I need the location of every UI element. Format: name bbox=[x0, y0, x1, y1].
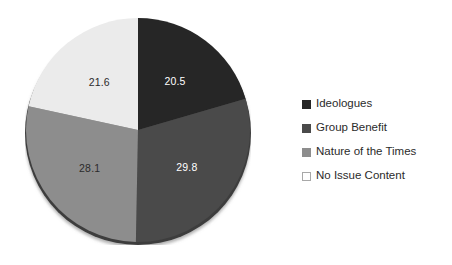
legend-item-no-issue-content[interactable]: No Issue Content bbox=[302, 164, 447, 188]
legend-label-group-benefit: Group Benefit bbox=[316, 122, 387, 134]
legend-swatch-icon-group-benefit bbox=[302, 124, 311, 133]
pie-slices bbox=[26, 18, 250, 242]
legend-swatch-icon-ideologues bbox=[302, 100, 311, 109]
pie-label-group-benefit: 29.8 bbox=[176, 161, 197, 173]
legend-item-ideologues[interactable]: Ideologues bbox=[302, 92, 447, 116]
legend-label-ideologues: Ideologues bbox=[316, 98, 372, 110]
legend-label-nature-of-the-times: Nature of the Times bbox=[316, 146, 416, 158]
chart-legend: Ideologues Group Benefit Nature of the T… bbox=[302, 92, 447, 188]
pie-chart-plot-area: 20.5 29.8 28.1 21.6 bbox=[25, 17, 251, 245]
legend-label-no-issue-content: No Issue Content bbox=[316, 170, 405, 182]
pie-chart-figure: 20.5 29.8 28.1 21.6 Ideologues Group Ben… bbox=[0, 0, 452, 265]
pie-chart-svg: 20.5 29.8 28.1 21.6 bbox=[25, 17, 251, 245]
pie-label-nature-of-the-times: 28.1 bbox=[79, 162, 100, 174]
legend-item-nature-of-the-times[interactable]: Nature of the Times bbox=[302, 140, 447, 164]
pie-label-ideologues: 20.5 bbox=[164, 75, 185, 87]
legend-swatch-icon-no-issue-content bbox=[302, 172, 311, 181]
legend-item-group-benefit[interactable]: Group Benefit bbox=[302, 116, 447, 140]
legend-swatch-icon-nature-of-the-times bbox=[302, 148, 311, 157]
pie-label-no-issue-content: 21.6 bbox=[89, 76, 110, 88]
